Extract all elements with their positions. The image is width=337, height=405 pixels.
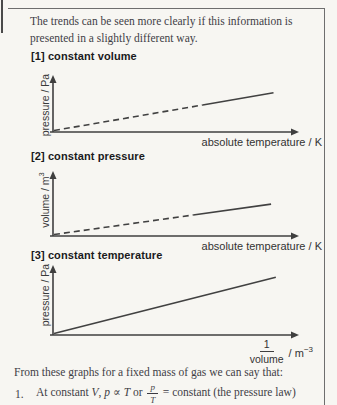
chart-1-heading: [1] constant volume [31, 50, 137, 62]
scan-edge-artifact [1, 0, 3, 33]
chart-3-x-axis-unit: / m−3 [289, 345, 313, 359]
chart-3-measured-region [54, 277, 276, 333]
intro-line-1: The trends can be seen more clearly if t… [30, 15, 293, 27]
list-item-1: 1. At constant V, p ∝ T or pT = constant… [15, 382, 320, 405]
chart-2-y-axis-label-sup: 3 [37, 172, 46, 176]
p-over-T-numerator: p [147, 382, 158, 394]
proportional-symbol: ∝ [110, 386, 124, 398]
p-over-T-fraction: pT [147, 382, 158, 405]
intro-line-2: presented in a slightly different way. [30, 32, 198, 44]
chart-1-y-axis-label: pressure / Pa [35, 67, 49, 143]
chart-1-x-axis-arrow [291, 129, 299, 136]
chart-3-plot [48, 264, 300, 339]
one-over-volume-fraction: 1 volume [250, 338, 284, 365]
chart-1-measured-region [203, 93, 274, 105]
chart-3-x-axis-label: 1 volume / m−3 [250, 338, 313, 365]
list-item-1-text: At constant V, p ∝ T or pT = constant (t… [36, 382, 296, 405]
chart-1-extrapolated-region [54, 105, 203, 131]
fraction-numerator: 1 [260, 338, 274, 352]
list-item-1-number: 1. [15, 388, 28, 400]
item-text-4: = constant (the pressure law) [160, 386, 296, 398]
chart-3-heading: [3] constant temperature [31, 249, 162, 261]
item-text-3: or [130, 386, 145, 398]
chart-2-measured-region [193, 204, 271, 215]
chart-2-extrapolated-region [54, 215, 193, 235]
chart-2-y-axis-label: volume / m3 [35, 160, 49, 240]
scanned-textbook-page: The trends can be seen more clearly if t… [0, 0, 337, 405]
chart-2-plot [48, 170, 300, 240]
chart-3-x-axis-unit-text: / m [289, 346, 304, 358]
chart-2-y-axis-arrow [50, 171, 57, 179]
chart-3-x-axis-unit-sup: −3 [304, 345, 313, 354]
p-over-T-denominator: T [150, 394, 155, 405]
fraction-denominator: volume [250, 352, 284, 365]
conclusion-lead: From these graphs for a fixed mass of ga… [14, 366, 314, 378]
intro-paragraph: The trends can be seen more clearly if t… [30, 13, 315, 46]
chart-1-plot [48, 74, 300, 136]
item-text-1: At constant [36, 386, 92, 398]
chart-2-x-axis-arrow [291, 233, 299, 240]
chart-1-x-axis-label: absolute temperature / K [202, 136, 322, 148]
chart-3-y-axis-arrow [50, 265, 57, 273]
chart-3-y-axis-label: pressure / Pa [35, 255, 49, 335]
frame-right-border [324, 8, 325, 405]
chart-2-x-axis-label: absolute temperature / K [202, 240, 322, 252]
frame-top-border [8, 8, 325, 9]
chart-1-y-axis-arrow [50, 75, 57, 83]
variable-V: V [92, 386, 99, 398]
